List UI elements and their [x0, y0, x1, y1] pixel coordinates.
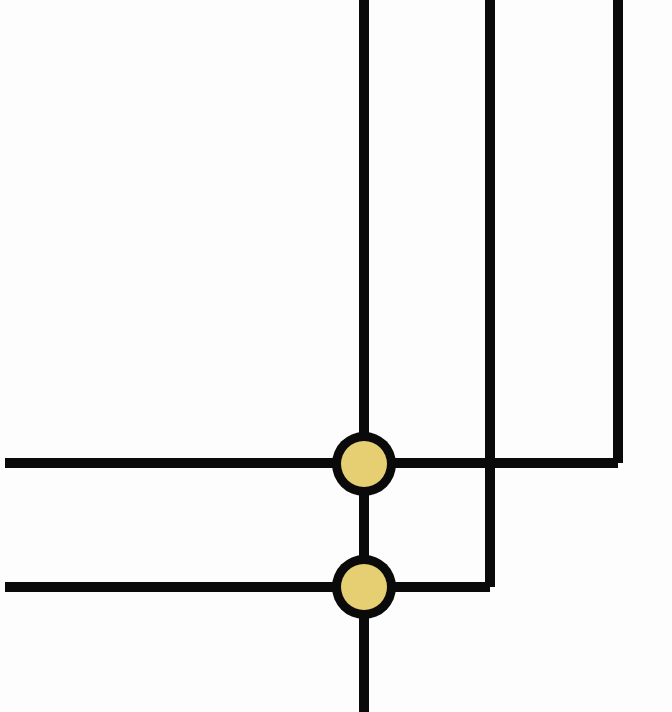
diagram-canvas [0, 0, 672, 712]
wiring-diagram [0, 0, 672, 712]
junction-lower-node [332, 555, 396, 619]
junction-fill [341, 564, 387, 610]
wires-layer [5, 0, 618, 712]
junction-upper-node [332, 432, 396, 496]
junction-fill [341, 441, 387, 487]
